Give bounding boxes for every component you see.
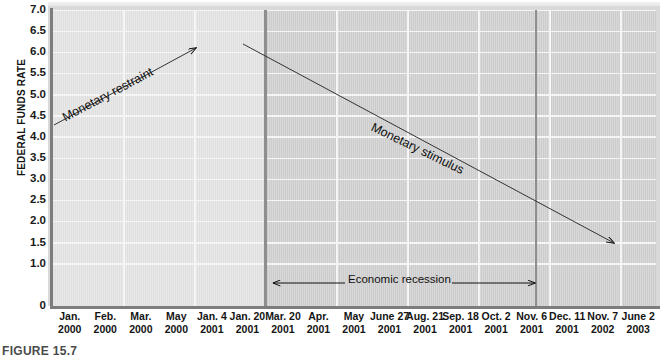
gridline-horizontal (52, 52, 656, 54)
x-tick-label-line2: 2003 (613, 323, 663, 336)
gridline-vertical (478, 10, 480, 306)
economic-recession-label: Economic recession (348, 273, 451, 285)
y-tick-label: 4.5 (2, 110, 46, 121)
y-tick-label: 2.5 (2, 194, 46, 205)
y-tick-label: 1.5 (2, 237, 46, 248)
y-axis-line (50, 8, 53, 308)
gridline-horizontal (52, 136, 656, 138)
x-axis-line (50, 306, 660, 309)
y-tick-label: 6.5 (2, 25, 46, 36)
y-tick-label: 2.0 (2, 215, 46, 226)
y-tick-label: 3.0 (2, 173, 46, 184)
gridline-vertical (620, 10, 622, 306)
y-tick-label: 5.0 (2, 89, 46, 100)
gridline-vertical (336, 10, 338, 306)
y-tick-label: 5.5 (2, 67, 46, 78)
gridline-horizontal (52, 158, 656, 160)
recession-start-line (264, 10, 267, 306)
x-tick-label-line1: June 2 (613, 310, 663, 323)
gridline-horizontal (52, 263, 656, 265)
gridline-horizontal (52, 221, 656, 223)
x-tick-label: June 22003 (613, 310, 663, 335)
gridline-horizontal (52, 94, 656, 96)
gridline-horizontal (52, 31, 656, 33)
x-axis-tick-labels: Jan.2000Feb.2000Mar.2000May2000Jan. 4200… (0, 310, 664, 344)
y-tick-label: 6.0 (2, 46, 46, 57)
y-tick-label: 7.0 (2, 4, 46, 15)
y-tick-label: 1.0 (2, 258, 46, 269)
gridline-horizontal (52, 179, 656, 181)
gridline-horizontal (52, 200, 656, 202)
figure-15-7: FEDERAL FUNDS RATE 7.06.56.05.55.04.54.0… (0, 0, 664, 363)
gridline-vertical (194, 10, 196, 306)
gridline-horizontal (52, 242, 656, 244)
figure-caption: FIGURE 15.7 (2, 344, 77, 358)
gridline-vertical (549, 10, 551, 306)
y-axis-tick-labels: 7.06.56.05.55.04.54.03.53.02.52.01.51.00 (0, 0, 46, 320)
gridline-vertical (407, 10, 409, 306)
recession-end-line (535, 10, 538, 306)
plot-area (52, 10, 656, 306)
gridline-vertical (123, 10, 125, 306)
y-tick-label: 3.5 (2, 152, 46, 163)
y-tick-label: 4.0 (2, 131, 46, 142)
gridline-horizontal (52, 10, 656, 11)
gridline-horizontal (52, 115, 656, 117)
